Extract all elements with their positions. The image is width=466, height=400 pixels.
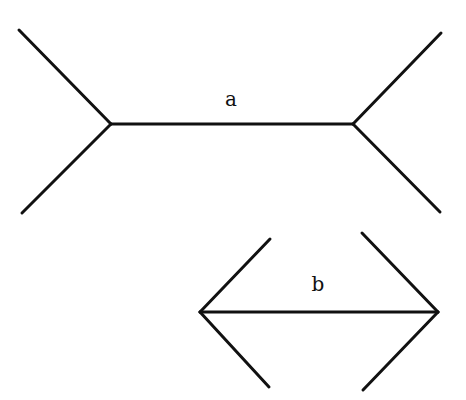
fin-line-b-1: [200, 312, 269, 387]
fin-line-a-0: [19, 30, 111, 124]
label-b: b: [312, 274, 325, 294]
figure-a-outward-fins: [19, 30, 441, 213]
figure-b-inward-fins: [200, 233, 438, 390]
diagram-canvas: [0, 0, 466, 400]
fin-line-b-3: [363, 312, 438, 390]
fin-line-a-3: [353, 124, 440, 212]
fin-line-b-2: [362, 233, 438, 312]
label-a: a: [225, 89, 237, 109]
fin-line-a-1: [22, 124, 111, 213]
fin-line-a-2: [353, 33, 441, 124]
fin-line-b-0: [200, 239, 270, 312]
